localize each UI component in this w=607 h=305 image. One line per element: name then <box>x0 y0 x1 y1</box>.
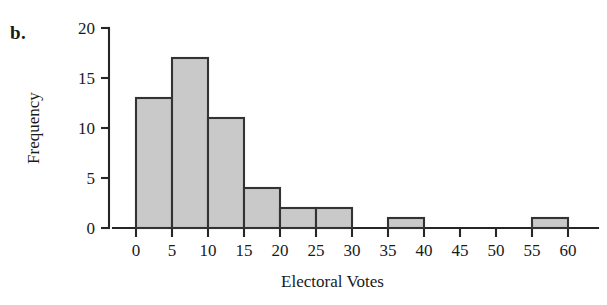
x-axis-tick-label: 30 <box>344 241 361 260</box>
x-axis-tick-label: 40 <box>416 241 433 260</box>
histogram-bar <box>172 58 208 228</box>
histogram-bar <box>316 208 352 228</box>
histogram-figure: b. Frequency Electoral Votes 05101520 05… <box>0 0 607 305</box>
x-axis-tick-label: 60 <box>560 241 577 260</box>
bars-group <box>136 58 568 228</box>
x-axis-tick-label: 0 <box>132 241 141 260</box>
histogram-bar <box>280 208 316 228</box>
y-axis-tick-label: 0 <box>87 219 96 238</box>
histogram-bar <box>208 118 244 228</box>
x-axis-tick-label: 35 <box>380 241 397 260</box>
y-axis-tick-label: 5 <box>87 169 96 188</box>
x-axis-tick-label: 55 <box>524 241 541 260</box>
x-axis-tick-label: 45 <box>452 241 469 260</box>
histogram-bar <box>136 98 172 228</box>
y-axis: 05101520 <box>78 19 109 238</box>
histogram-bar <box>244 188 280 228</box>
x-axis-tick-label: 20 <box>272 241 289 260</box>
histogram-bar <box>532 218 568 228</box>
x-axis-tick-label: 5 <box>168 241 177 260</box>
x-axis-tick-label: 25 <box>308 241 325 260</box>
y-axis-tick-label: 10 <box>78 119 95 138</box>
x-axis: 051015202530354045505560 <box>113 228 598 260</box>
x-axis-tick-label: 15 <box>236 241 253 260</box>
x-axis-tick-label: 10 <box>200 241 217 260</box>
y-axis-tick-label: 20 <box>78 19 95 38</box>
x-axis-tick-label: 50 <box>488 241 505 260</box>
histogram-bar <box>388 218 424 228</box>
y-axis-tick-label: 15 <box>78 69 95 88</box>
plot-area: 05101520 051015202530354045505560 <box>0 0 607 305</box>
